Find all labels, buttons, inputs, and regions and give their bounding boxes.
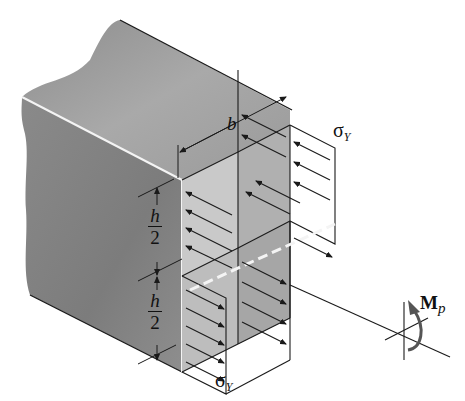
- denominator: 2: [150, 313, 160, 332]
- label-sigma-y-bottom: σY: [215, 370, 232, 393]
- sigma-subscript: Y: [226, 380, 233, 394]
- label-b: b: [227, 114, 237, 133]
- moment-subscript: p: [438, 300, 446, 316]
- beam-plastic-moment-diagram: [0, 0, 465, 401]
- label-h-over-2-bottom: h 2: [148, 291, 162, 332]
- label-moment-mp: Mp: [420, 293, 445, 316]
- label-sigma-y-top: σY: [333, 120, 350, 143]
- numerator: h: [150, 206, 160, 225]
- moment-arrowhead-icon: [408, 300, 420, 315]
- denominator: 2: [150, 228, 160, 247]
- numerator: h: [150, 291, 160, 310]
- sigma-symbol: σ: [215, 369, 226, 391]
- sigma-subscript: Y: [344, 130, 351, 144]
- moment-arrow-icon: [408, 310, 421, 350]
- label-h-over-2-top: h 2: [148, 206, 162, 247]
- moment-symbol: M: [420, 292, 438, 313]
- sigma-symbol: σ: [333, 119, 344, 141]
